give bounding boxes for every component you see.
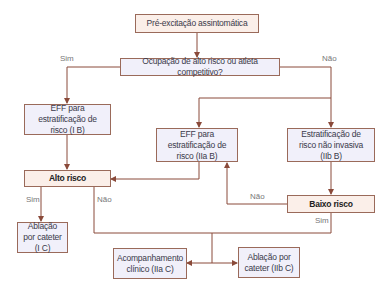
start-node: Pré-excitação assintomática [135,14,259,33]
high-yes-label: Sim [26,195,40,204]
low-yes-label: Sim [315,216,329,225]
noninvasive-node: Estratificação de risco não invasiva (II… [287,128,375,162]
eff-iia-node: EFF para estratificação de risco (IIa B) [156,128,238,162]
low-risk-node: Baixo risco [287,195,375,213]
followup-node: Acompanhamento clínico (IIa C) [113,248,187,279]
low-no-label: Não [250,192,265,201]
high-risk-node: Alto risco [24,170,111,187]
question-no-label: Não [322,54,337,63]
eff-ib-node: EFF para estratificação de risco (I B) [24,104,111,135]
question-node: Ocupação de alto risco ou atleta competi… [120,58,280,76]
ablation-iibc-node: Ablação por cateter (IIb C) [238,247,300,278]
question-yes-label: Sim [60,54,74,63]
high-no-label: Não [97,195,112,204]
ablation-ic-node: Ablação por cateter (I C) [17,222,68,253]
